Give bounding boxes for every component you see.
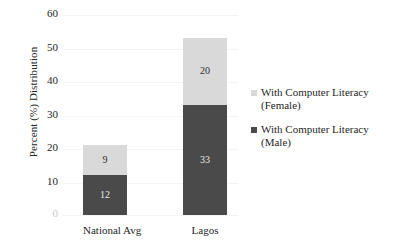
- bar-group-lagos[interactable]: 20 33 Lagos: [183, 38, 227, 215]
- legend-label-male-line2: (Male): [261, 136, 291, 148]
- y-gridline-0: [63, 215, 238, 216]
- bar-value-female-national-avg: 9: [103, 155, 108, 165]
- x-axis-label-lagos: Lagos: [183, 224, 227, 236]
- bar-group-national-avg[interactable]: 9 12 National Avg: [83, 145, 127, 215]
- bar-value-male-lagos: 33: [200, 155, 210, 165]
- legend-item-male[interactable]: With Computer Literacy(Male): [251, 123, 391, 148]
- y-tick-label-0: 0: [53, 207, 59, 219]
- chart-legend: With Computer Literacy(Female) With Comp…: [251, 86, 391, 160]
- legend-item-female[interactable]: With Computer Literacy(Female): [251, 86, 391, 111]
- legend-label-male-line1: With Computer Literacy: [261, 123, 369, 135]
- bar-segment-male-national-avg[interactable]: 12: [83, 175, 127, 215]
- legend-label-male: With Computer Literacy(Male): [261, 123, 369, 148]
- legend-swatch-male-icon: [251, 127, 257, 133]
- legend-label-female: With Computer Literacy(Female): [261, 86, 369, 111]
- bars-container: 9 12 National Avg 20 33 Lagos: [63, 12, 238, 215]
- y-tick-label-50: 50: [47, 41, 58, 53]
- bar-value-male-national-avg: 12: [100, 190, 110, 200]
- y-tick-label-10: 10: [47, 175, 58, 187]
- bar-segment-female-lagos[interactable]: 20: [183, 38, 227, 105]
- legend-swatch-female-icon: [251, 90, 257, 96]
- stacked-bar-chart: Percent (%) Distribution 60 50 40 30 20 …: [0, 0, 393, 248]
- y-tick-label-20: 20: [47, 141, 58, 153]
- y-tick-label-30: 30: [47, 108, 58, 120]
- bar-segment-male-lagos[interactable]: 33: [183, 105, 227, 215]
- y-axis-title: Percent (%) Distribution: [27, 22, 39, 182]
- bar-value-female-lagos: 20: [200, 66, 210, 76]
- bar-segment-female-national-avg[interactable]: 9: [83, 145, 127, 175]
- y-tick-label-40: 40: [47, 74, 58, 86]
- y-tick-label-60: 60: [47, 7, 58, 19]
- legend-label-female-line2: (Female): [261, 99, 301, 111]
- x-axis-label-national-avg: National Avg: [83, 224, 127, 236]
- legend-label-female-line1: With Computer Literacy: [261, 86, 369, 98]
- plot-area: 60 50 40 30 20 10 0: [63, 12, 238, 215]
